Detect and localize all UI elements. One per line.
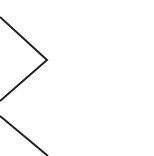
chevron-diagram (0, 0, 154, 156)
canvas-background (0, 0, 154, 156)
diagram-canvas (0, 0, 154, 156)
